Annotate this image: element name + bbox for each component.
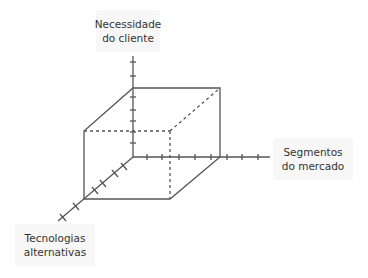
depth-ticks: [60, 163, 127, 221]
vertical-axis-label-line2: do cliente: [102, 31, 154, 45]
depth-axis: [58, 157, 133, 221]
vertical-axis-label-line1: Necessidade: [95, 17, 162, 31]
vertical-axis-label: Necessidade do cliente: [96, 10, 160, 52]
depth-axis-label-line2: alternativas: [24, 245, 86, 259]
horizontal-axis-label-line1: Segmentos: [283, 145, 342, 159]
horizontal-axis-label: Segmentos do mercado: [273, 138, 353, 180]
cube-hidden-edges: [84, 88, 220, 199]
depth-axis-label-line1: Tecnologias: [25, 231, 86, 245]
depth-axis-label: Tecnologias alternativas: [15, 224, 95, 266]
horizontal-axis-label-line2: do mercado: [282, 159, 345, 173]
cube-edges: [84, 88, 220, 199]
